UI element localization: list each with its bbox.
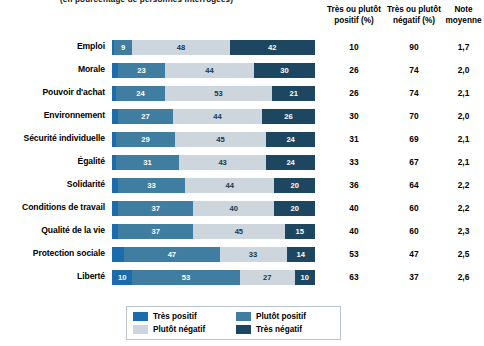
legend-swatch-plutot-negatif [133, 325, 148, 334]
bar-segment-pn: 45 [175, 132, 266, 147]
bar-segment-pn: 33 [220, 247, 287, 262]
value-average: 2,0 [443, 65, 484, 75]
bar-segment-pn: 27 [240, 270, 295, 285]
legend-swatch-tres-negatif [236, 325, 251, 334]
bar-segment-tn: 30 [254, 63, 315, 78]
value-negative: 64 [385, 180, 443, 190]
bar-segment-pn: 53 [165, 86, 273, 101]
value-positive: 33 [326, 157, 382, 167]
chart-subtitle-text: (en pourcentage de personnes interrogées… [60, 0, 350, 4]
column-header-positive: Très ou plutôt positif (%) [326, 5, 382, 26]
value-average: 2,1 [443, 88, 484, 98]
bar-segment-tn: 24 [266, 132, 315, 147]
stacked-bar: 334420 [112, 178, 315, 193]
bar-segment-pp: 27 [118, 109, 173, 124]
value-positive: 30 [326, 111, 382, 121]
value-average: 2,2 [443, 180, 484, 190]
bar-segment-pp: 47 [124, 247, 219, 262]
legend-item-tres-negatif: Très négatif [236, 323, 302, 336]
column-header-negative: Très ou plutôt négatif (%) [385, 5, 443, 26]
row-label: Qualité de la vie [0, 225, 105, 235]
value-positive: 40 [326, 226, 382, 236]
chart-row: Égalité31432433672,1 [0, 153, 484, 176]
chart-row: Solidarité33442036642,2 [0, 176, 484, 199]
chart-legend: Très positif Plutôt positif Plutôt négat… [126, 306, 341, 340]
chart-row: Morale23443026742,0 [0, 61, 484, 84]
chart-row: Environnement27442630702,0 [0, 107, 484, 130]
bar-segment-tn: 10 [295, 270, 315, 285]
bar-segment-pn: 44 [165, 63, 254, 78]
value-negative: 74 [385, 88, 443, 98]
bar-segment-tn: 21 [272, 86, 315, 101]
legend-row-bottom: Plutôt négatif Très négatif [133, 323, 334, 336]
value-average: 2,6 [443, 272, 484, 282]
legend-item-plutot-negatif: Plutôt négatif [133, 323, 236, 336]
value-negative: 60 [385, 226, 443, 236]
bar-segment-tn: 14 [287, 247, 315, 262]
legend-row-top: Très positif Plutôt positif [133, 310, 334, 323]
legend-item-tres-positif: Très positif [133, 310, 236, 323]
stacked-bar: 10532710 [112, 270, 315, 285]
bar-segment-tn: 20 [274, 178, 315, 193]
stacked-bar: 274426 [112, 109, 315, 124]
bar-segment-tn: 26 [262, 109, 315, 124]
stacked-bar: 234430 [112, 63, 315, 78]
value-negative: 37 [385, 272, 443, 282]
stacked-bar: 374020 [112, 201, 315, 216]
column-header-average: Note moyenne [443, 5, 484, 26]
chart-row: Qualité de la vie37451540602,3 [0, 222, 484, 245]
value-negative: 74 [385, 65, 443, 75]
row-label: Conditions de travail [0, 202, 105, 212]
value-average: 2,5 [443, 249, 484, 259]
bar-segment-pn: 48 [132, 40, 229, 55]
value-positive: 53 [326, 249, 382, 259]
row-label: Sécurité individuelle [0, 133, 105, 143]
bar-segment-pp: 37 [118, 224, 193, 239]
value-average: 2,2 [443, 203, 484, 213]
chart-row: Sécurité individuelle29452431692,1 [0, 130, 484, 153]
chart-row: Pouvoir d'achat24532126742,1 [0, 84, 484, 107]
bar-segment-pp: 53 [132, 270, 240, 285]
value-positive: 10 [326, 42, 382, 52]
bar-segment-tp: 10 [112, 270, 132, 285]
legend-swatch-tres-positif [133, 312, 148, 321]
bar-segment-pn: 45 [193, 224, 284, 239]
legend-label-plutot-positif: Plutôt positif [256, 312, 306, 321]
chart-row: Conditions de travail37402040602,2 [0, 199, 484, 222]
bar-segment-tn: 20 [274, 201, 315, 216]
legend-label-tres-positif: Très positif [153, 312, 197, 321]
value-negative: 67 [385, 157, 443, 167]
chart-subtitle: (en pourcentage de personnes interrogées… [60, 0, 350, 7]
bar-segment-pp: 31 [116, 155, 179, 170]
bar-segment-pn: 40 [193, 201, 274, 216]
value-negative: 90 [385, 42, 443, 52]
bar-segment-pp: 29 [116, 132, 175, 147]
bar-segment-tn: 42 [230, 40, 315, 55]
value-average: 2,1 [443, 157, 484, 167]
row-label: Égalité [0, 156, 105, 166]
value-negative: 47 [385, 249, 443, 259]
chart-rows: Emploi9484210901,7Morale23443026742,0Pou… [0, 38, 484, 291]
value-positive: 26 [326, 65, 382, 75]
bar-segment-pp: 9 [114, 40, 132, 55]
row-label: Pouvoir d'achat [0, 87, 105, 97]
legend-label-plutot-negatif: Plutôt négatif [153, 325, 205, 334]
bar-segment-pp: 33 [118, 178, 185, 193]
row-label: Environnement [0, 110, 105, 120]
legend-item-plutot-positif: Plutôt positif [236, 310, 306, 323]
bar-segment-tn: 15 [285, 224, 315, 239]
stacked-bar-chart: (en pourcentage de personnes interrogées… [0, 0, 484, 346]
row-label: Morale [0, 64, 105, 74]
stacked-bar: 374515 [112, 224, 315, 239]
bar-segment-pp: 37 [118, 201, 193, 216]
value-negative: 70 [385, 111, 443, 121]
chart-row: Protection sociale47331453472,5 [0, 245, 484, 268]
bar-segment-pp: 23 [118, 63, 165, 78]
value-average: 2,3 [443, 226, 484, 236]
value-positive: 36 [326, 180, 382, 190]
row-label: Solidarité [0, 179, 105, 189]
value-negative: 69 [385, 134, 443, 144]
value-negative: 60 [385, 203, 443, 213]
stacked-bar: 314324 [112, 155, 315, 170]
bar-segment-tn: 24 [266, 155, 315, 170]
